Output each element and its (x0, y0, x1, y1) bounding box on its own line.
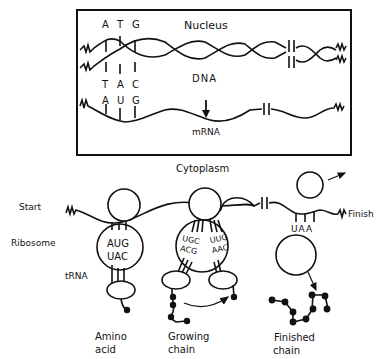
svg-text:C: C (132, 79, 139, 90)
transfer-arrow-icon (184, 297, 228, 307)
growing-chain-label-line1: Growing (168, 331, 209, 342)
release-arrow-large-icon (308, 272, 316, 290)
svg-text:T: T (116, 19, 124, 30)
ribosome-label: Ribosome (11, 238, 56, 248)
svg-text:G: G (132, 19, 140, 30)
amino-acid-bead (124, 307, 130, 313)
amino-acid-label-line2: acid (95, 344, 116, 355)
trna-1 (107, 265, 135, 310)
stop-codon: UAA (291, 224, 313, 234)
growing-chain-label-line2: chain (168, 344, 195, 355)
dna-bottom-codon: T A C (101, 79, 139, 90)
dna-double-helix (80, 36, 346, 74)
amino-acid-label-line1: Amino (95, 331, 127, 342)
finish-label: Finish (348, 209, 374, 219)
dna-top-codon: A T G (102, 19, 140, 30)
svg-text:A: A (102, 19, 109, 30)
trna-label: tRNA (65, 271, 89, 281)
cytoplasm-label: Cytoplasm (176, 163, 229, 174)
start-label: Start (19, 202, 41, 212)
svg-text:T: T (101, 79, 109, 90)
nucleus-label: Nucleus (184, 19, 228, 32)
finished-chain (269, 292, 331, 326)
finished-chain-label-line2: chain (273, 345, 300, 356)
svg-text:A: A (102, 95, 109, 106)
release-arrow-small-icon (328, 173, 345, 180)
mrna-codon: A U G (102, 95, 140, 106)
svg-text:G: G (132, 95, 140, 106)
protein-synthesis-diagram: Nucleus A T G T A C DNA (0, 0, 384, 359)
svg-text:A: A (117, 79, 124, 90)
ribosome-1-codon: AUG (107, 238, 129, 249)
dna-label: DNA (192, 73, 217, 84)
svg-text:U: U (117, 95, 124, 106)
finished-chain-label-line1: Finished (274, 332, 315, 343)
down-arrow-icon (202, 100, 210, 118)
trna-2-left (162, 258, 192, 289)
mrna-label: mRNA (192, 127, 221, 137)
ribosome-1-anticodon: UAC (107, 251, 128, 262)
